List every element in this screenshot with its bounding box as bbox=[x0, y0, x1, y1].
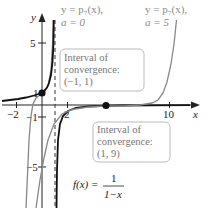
interval-box-a5-line2: convergence: bbox=[97, 136, 153, 147]
y-axis-arrow-icon bbox=[39, 13, 46, 22]
f-label-lhs: f(x) = bbox=[73, 178, 98, 191]
taylor-polynomial-graph: −2 2 10 5 1 −1 −5 y x y = p₇(x), a = 0 y… bbox=[0, 0, 210, 208]
x-tick-label: −2 bbox=[7, 108, 19, 120]
point-center-a0 bbox=[38, 89, 45, 96]
curve-f-left-branch bbox=[2, 20, 54, 101]
interval-box-a0-line2: convergence: bbox=[64, 64, 120, 75]
label-p7-a0-line2: a = 0 bbox=[61, 16, 85, 28]
x-axis-label: x bbox=[192, 108, 198, 120]
interval-box-a5-line3: (1, 9) bbox=[97, 148, 120, 160]
point-center-a5 bbox=[102, 102, 109, 109]
label-p7-a0-line1: y = p₇(x), bbox=[61, 3, 103, 16]
interval-box-a0-line3: (−1, 1) bbox=[64, 76, 93, 88]
label-p7-a5-line2: a = 5 bbox=[145, 16, 169, 28]
label-p7-a5-line1: y = p₇(x), bbox=[145, 3, 187, 16]
f-label-numerator: 1 bbox=[111, 172, 117, 184]
x-tick-label: 10 bbox=[163, 108, 175, 120]
y-axis-label: y bbox=[30, 11, 36, 23]
y-tick-label: 5 bbox=[30, 37, 36, 49]
interval-box-a0-line1: Interval of bbox=[64, 52, 109, 63]
interval-box-a5-line1: Interval of bbox=[97, 124, 142, 135]
f-label-denominator: 1−x bbox=[104, 188, 122, 200]
